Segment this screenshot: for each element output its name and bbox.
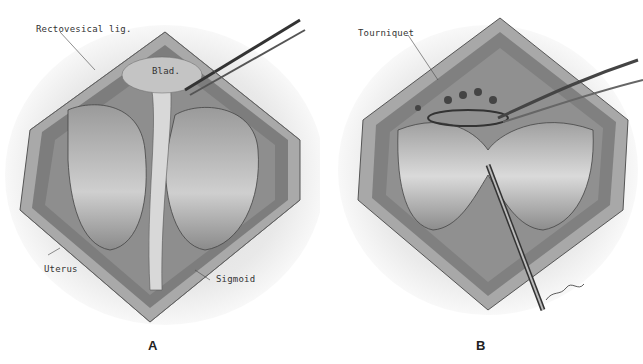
label-tourniquet: Tourniquet	[358, 28, 414, 38]
label-rectovesical-ligament: Rectovesical lig.	[36, 24, 132, 34]
label-bladder: Blad.	[152, 66, 180, 76]
label-uterus: Uterus	[44, 264, 78, 274]
panel-caption-b: B	[476, 338, 485, 353]
surgical-illustration-a	[0, 0, 320, 330]
illustration-panel-a: Rectovesical lig. Blad. Uterus Sigmoid	[0, 0, 320, 330]
surgical-illustration-b	[338, 0, 643, 330]
illustration-panel-b: Tourniquet	[338, 0, 643, 330]
label-sigmoid: Sigmoid	[216, 274, 255, 284]
panel-caption-a: A	[148, 338, 157, 353]
